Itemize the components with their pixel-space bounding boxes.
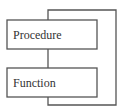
function-label: Function [13,76,56,90]
procedure-label: Procedure [13,28,62,42]
node-procedure: Procedure [7,20,97,49]
diagram-canvas: Procedure Function [0,0,123,111]
node-function: Function [7,68,97,97]
